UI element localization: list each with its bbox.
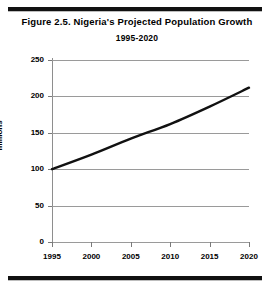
series-layer <box>0 0 274 293</box>
bottom-rule <box>8 276 262 280</box>
population-line <box>52 88 249 170</box>
figure-page: Figure 2.5. Nigeria's Projected Populati… <box>0 0 274 293</box>
line-chart: 050100150200250 199520002005201020152020… <box>0 0 274 293</box>
